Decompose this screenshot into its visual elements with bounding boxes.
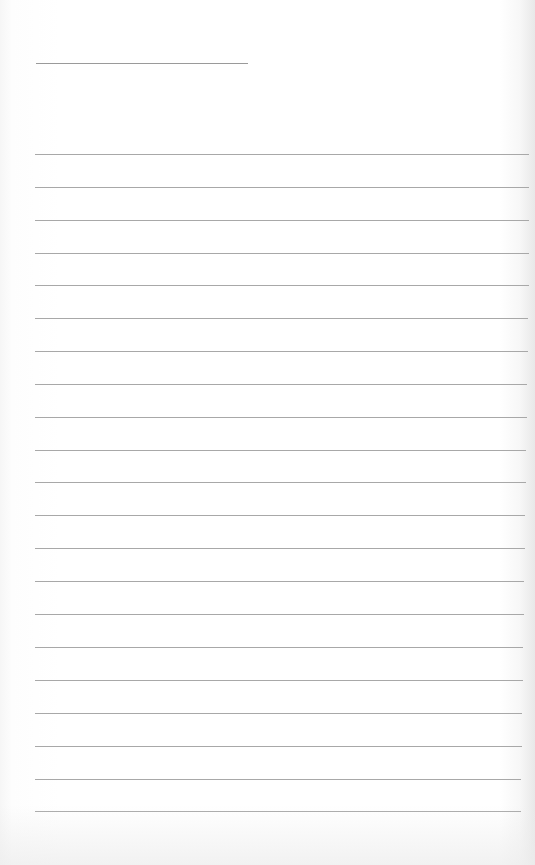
ruled-line: [35, 384, 527, 385]
ruled-line: [35, 614, 524, 615]
ruled-line: [35, 515, 525, 516]
title-line: [36, 63, 248, 64]
ruled-line: [35, 450, 526, 451]
ruled-line: [35, 154, 529, 155]
ruled-line: [35, 746, 522, 747]
paper-shadow: [0, 805, 535, 865]
lined-paper: [0, 0, 535, 865]
ruled-line: [35, 581, 524, 582]
ruled-line: [35, 253, 529, 254]
ruled-line: [35, 482, 526, 483]
ruled-line: [35, 680, 523, 681]
ruled-line: [35, 548, 525, 549]
ruled-line: [35, 779, 521, 780]
ruled-line: [35, 220, 529, 221]
ruled-line: [35, 318, 528, 319]
ruled-line: [35, 713, 522, 714]
ruled-line: [35, 417, 527, 418]
ruled-line: [35, 187, 529, 188]
ruled-line: [35, 351, 528, 352]
ruled-line: [35, 647, 523, 648]
ruled-line: [35, 285, 529, 286]
